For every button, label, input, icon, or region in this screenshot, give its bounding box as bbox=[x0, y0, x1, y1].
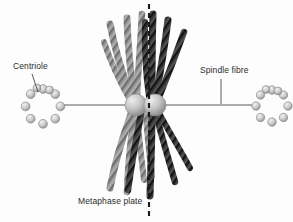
centromere-right bbox=[144, 94, 166, 116]
centromere-left bbox=[125, 94, 147, 116]
label-metaphase-plate: Metaphase plate bbox=[78, 196, 142, 206]
centriole-left bbox=[21, 84, 65, 128]
chromatid-group-upper-dark bbox=[145, 14, 184, 97]
diagram-svg bbox=[0, 0, 293, 222]
chromatid-group-upper-light bbox=[104, 14, 142, 98]
label-centriole: Centriole bbox=[13, 61, 48, 71]
diagram-canvas: Centriole Spindle fibre Metaphase plate bbox=[0, 0, 293, 222]
chromatid-group-lower-dark bbox=[128, 113, 190, 196]
label-spindle-fibre: Spindle fibre bbox=[200, 65, 249, 75]
centriole-right bbox=[252, 86, 292, 127]
